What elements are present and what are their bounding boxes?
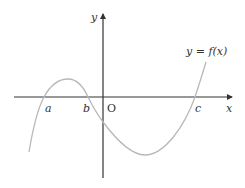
cubic-curve: [29, 62, 206, 155]
root-b-label: b: [83, 102, 90, 115]
root-c-label: c: [195, 102, 201, 115]
curve-label: y = f(x): [185, 45, 227, 58]
y-axis-label: y: [90, 11, 98, 24]
function-graph: y y = f(x) a b O c x: [0, 0, 245, 188]
root-a-label: a: [45, 102, 52, 115]
origin-label: O: [107, 102, 116, 115]
x-axis-label: x: [226, 102, 233, 115]
